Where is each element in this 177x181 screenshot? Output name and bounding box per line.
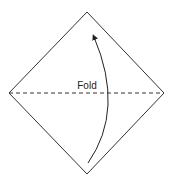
fold-diagram: Fold	[0, 0, 177, 181]
fold-arrow-icon	[88, 37, 108, 163]
fold-label: Fold	[77, 80, 96, 91]
